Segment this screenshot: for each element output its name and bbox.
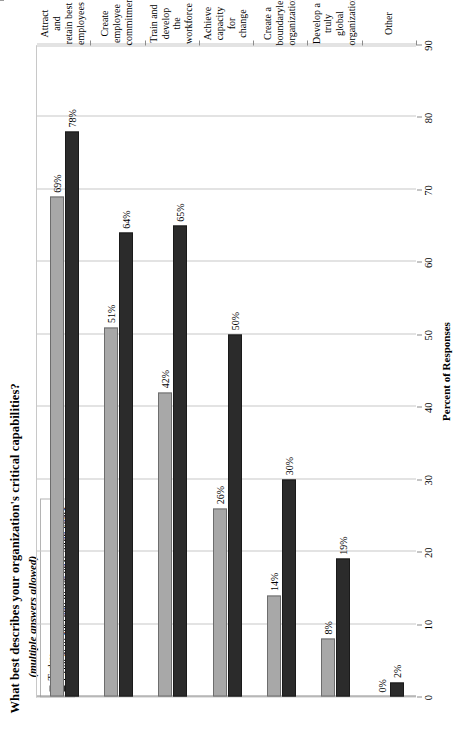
value-axis-tick-label: 70 [423, 185, 434, 196]
value-axis-tick-label: 10 [423, 619, 434, 630]
category-axis: Attract andretain bestemployeesCreateemp… [36, 1, 416, 45]
category-axis-label-line: workforce [184, 1, 196, 45]
category-axis-label-line: change [238, 1, 250, 45]
bar-today[interactable] [321, 638, 335, 696]
category-axis-label: Other [383, 1, 395, 45]
value-axis-tick-label: 40 [423, 402, 434, 413]
value-axis-tick [417, 334, 422, 335]
bar-value-label: 14% [268, 572, 279, 590]
bar-value-label: 2% [392, 664, 403, 677]
bar-value-label: 50% [229, 311, 240, 329]
category-axis-label-line: organization [346, 1, 358, 45]
value-axis-tick [417, 261, 422, 262]
chart-title: What best describes your organization's … [8, 193, 24, 713]
bar-today[interactable] [213, 508, 227, 696]
category-axis-label: Develop a trulyglobalorganization [311, 1, 358, 45]
bar-critical[interactable] [282, 479, 296, 696]
category-axis-label: Createemployeecommitment [100, 1, 135, 45]
value-axis-title: Percent of Responses [440, 45, 452, 697]
category-axis-tick [253, 40, 254, 45]
value-axis-tick-label: 20 [423, 547, 434, 558]
bar-value-label: 78% [66, 109, 77, 127]
category-axis-label-line: boundaryless [274, 1, 286, 45]
bar-value-label: 0% [377, 679, 388, 692]
bar-critical[interactable] [228, 334, 242, 696]
bar-critical[interactable] [336, 558, 350, 696]
category-axis-tick [145, 40, 146, 45]
chart-title-block: What best describes your organization's … [8, 193, 38, 713]
category-axis-label: Create aboundarylessorganization [263, 1, 298, 45]
bar-value-label: 65% [175, 203, 186, 221]
plot-area: 69%78%51%64%42%65%26%50%14%30%8%19%0%2% [36, 45, 416, 697]
category-axis-label-line: Attract and [40, 1, 64, 45]
bar-critical[interactable] [65, 131, 79, 696]
category-axis-label-line: Other [383, 1, 395, 45]
value-axis-tick-label: 30 [423, 474, 434, 485]
value-axis-tick-label: 90 [423, 40, 434, 51]
value-axis-tick [417, 406, 422, 407]
rotated-chart-wrapper: What best describes your organization's … [0, 0, 462, 743]
bar-critical[interactable] [173, 225, 187, 696]
bar-series-container: 69%78%51%64%42%65%26%50%14%30%8%19%0%2% [37, 46, 416, 696]
chart-canvas: What best describes your organization's … [0, 0, 462, 743]
bar-value-label: 64% [120, 210, 131, 228]
value-axis-tick-label: 0 [423, 694, 434, 699]
category-axis-label-line: commitment [123, 1, 135, 45]
category-axis-tick [416, 40, 417, 45]
value-axis-tick [417, 189, 422, 190]
category-axis-label-line: organization [286, 1, 298, 45]
category-axis-label-line: employees [75, 1, 87, 45]
bar-value-label: 51% [105, 304, 116, 322]
category-axis-label-line: Create [100, 1, 112, 45]
value-axis-tick [417, 116, 422, 117]
bar-value-label: 30% [283, 456, 294, 474]
category-axis-label-line: Achieve [202, 1, 214, 45]
bar-critical[interactable] [119, 232, 133, 696]
value-axis-tick [417, 696, 422, 697]
category-axis-label: Train anddevelop theworkforce [148, 1, 195, 45]
value-axis-tick [417, 479, 422, 480]
category-axis-label-line: employee [112, 1, 124, 45]
bar-value-label: 69% [51, 174, 62, 192]
category-axis-label: Achievecapacity forchange [202, 1, 249, 45]
bar-today[interactable] [104, 327, 118, 696]
category-axis-label-line: develop the [160, 1, 184, 45]
bar-today[interactable] [50, 196, 64, 696]
value-axis-tick-label: 60 [423, 257, 434, 268]
bar-value-label: 42% [160, 369, 171, 387]
value-axis-tick [417, 551, 422, 552]
bar-critical[interactable] [390, 682, 404, 696]
category-axis-tick [362, 40, 363, 45]
value-axis-tick-label: 50 [423, 330, 434, 341]
bar-today[interactable] [158, 392, 172, 696]
category-axis-label: Attract andretain bestemployees [40, 1, 87, 45]
category-axis-tick [199, 40, 200, 45]
category-axis-label-line: Create a [263, 1, 275, 45]
category-axis-label-line: retain best [63, 1, 75, 45]
bar-value-label: 8% [323, 621, 334, 634]
value-axis-tick-label: 80 [423, 112, 434, 123]
category-axis-label-line: global [335, 1, 347, 45]
value-axis-tick [417, 44, 422, 45]
category-axis-tick [307, 40, 308, 45]
category-axis-label-line: capacity for [214, 1, 238, 45]
category-axis-label-line: Develop a truly [311, 1, 335, 45]
category-axis-tick [90, 40, 91, 45]
category-axis-label-line: Train and [148, 1, 160, 45]
value-axis-tick [417, 624, 422, 625]
bar-value-label: 26% [214, 485, 225, 503]
bar-value-label: 19% [338, 536, 349, 554]
bar-today[interactable] [267, 595, 281, 696]
